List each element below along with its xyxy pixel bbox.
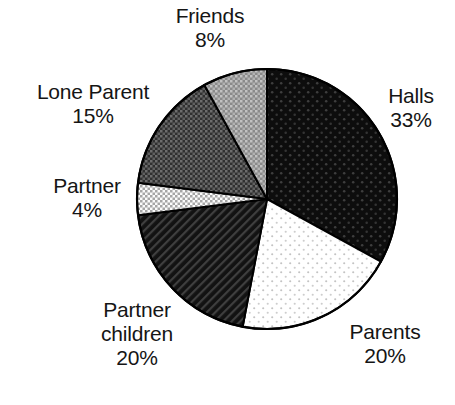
pie-label-lone-parent: Lone Parent 15% xyxy=(8,80,178,128)
pie-label-halls: Halls 33% xyxy=(368,84,454,132)
pie-label-halls-name: Halls xyxy=(368,84,454,108)
pie-label-partner-value: 4% xyxy=(22,198,152,222)
pie-chart: Friends 8% Lone Parent 15% Partner 4% Pa… xyxy=(0,0,455,405)
pie-label-parents: Parents 20% xyxy=(330,320,440,368)
pie-label-partner-children-line1: Partner xyxy=(62,298,212,322)
pie-label-halls-value: 33% xyxy=(368,108,454,132)
pie-label-parents-name: Parents xyxy=(330,320,440,344)
pie-label-friends-name: Friends xyxy=(145,4,275,28)
pie-label-partner-name: Partner xyxy=(22,174,152,198)
pie-label-partner-children: Partner children 20% xyxy=(62,298,212,370)
pie-label-partner: Partner 4% xyxy=(22,174,152,222)
pie-label-parents-value: 20% xyxy=(330,344,440,368)
pie-label-lone-parent-name: Lone Parent xyxy=(8,80,178,104)
pie-label-lone-parent-value: 15% xyxy=(8,104,178,128)
pie-label-partner-children-line2: children xyxy=(62,322,212,346)
pie-label-friends: Friends 8% xyxy=(145,4,275,52)
pie-label-partner-children-value: 20% xyxy=(62,346,212,370)
pie-label-friends-value: 8% xyxy=(145,28,275,52)
